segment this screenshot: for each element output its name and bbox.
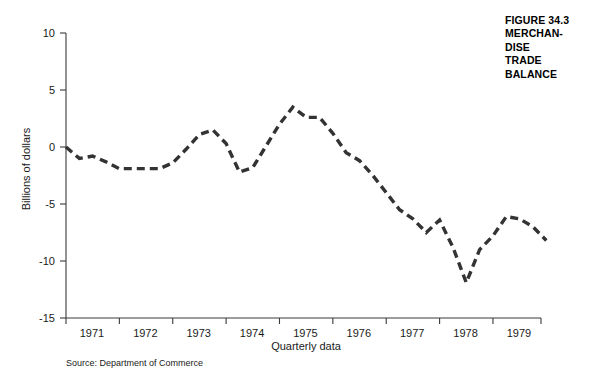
x-tick-group: 197119721973197419751976197719781979 [66,318,541,339]
y-tick-label: -5 [45,198,55,210]
figure-title: FIGURE 34.3 MERCHAN- DISE TRADE BALANCE [505,14,591,81]
y-tick-group: 1050-5-10-15 [39,27,66,324]
x-tick-label: 1972 [133,327,157,339]
source-note: Source: Department of Commerce [66,358,203,368]
y-tick-label: -10 [39,255,55,267]
x-tick-label: 1977 [400,327,424,339]
y-tick-label: -15 [39,312,55,324]
y-tick-label: 10 [43,27,55,39]
x-tick-label: 1979 [507,327,531,339]
y-tick-label: 5 [49,84,55,96]
x-tick-label: 1973 [186,327,210,339]
x-tick-label: 1971 [80,327,104,339]
y-axis: 1050-5-10-15 [39,27,66,324]
x-tick-label: 1974 [240,327,264,339]
figure-container: 1050-5-10-15 197119721973197419751976197… [0,0,594,380]
x-tick-label: 1975 [293,327,317,339]
y-axis-label: Billions of dollars [20,99,32,239]
data-series-line [66,107,546,283]
x-tick-label: 1976 [347,327,371,339]
x-axis-label: Quarterly data [206,340,406,352]
x-axis: 197119721973197419751976197719781979 [66,318,541,339]
y-tick-label: 0 [49,141,55,153]
x-tick-label: 1978 [453,327,477,339]
